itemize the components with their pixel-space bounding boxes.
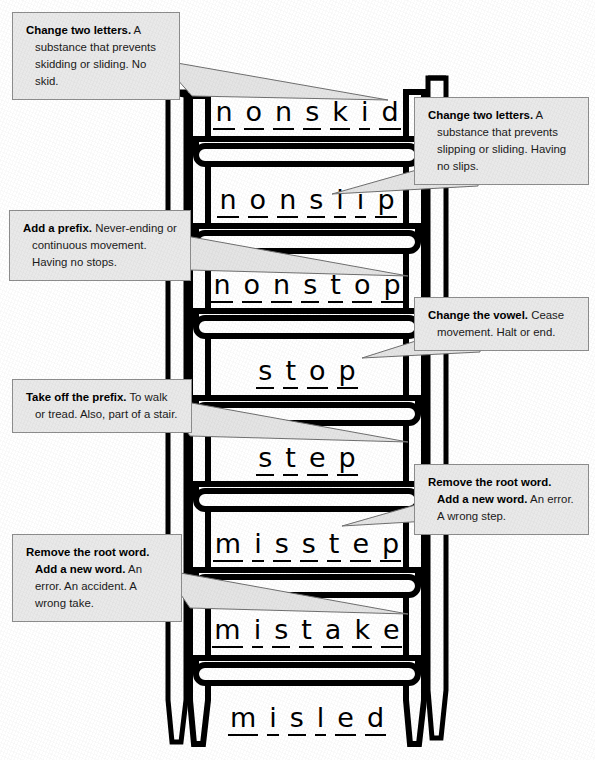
callout-text: Remove the root word. Add a new word. An… [26,544,169,612]
ladder-rung [196,658,418,683]
callout-tail-mistake [150,568,420,620]
word-letter: s [299,530,319,557]
word-letter: s [271,616,291,643]
word-letter: i [251,530,265,557]
word-letter: e [380,616,403,643]
ladder-word-misstep: misstep [196,530,418,557]
word-letter: m [227,704,259,731]
ladder-word-step: step [196,444,418,471]
word-letter: m [212,530,244,557]
callout-instruction: Change two letters. [26,24,131,36]
callout-text: Remove the root word. Add a new word. An… [428,474,576,525]
word-letter: t [282,444,299,471]
word-letter: e [349,530,372,557]
word-letter: s [287,704,307,731]
word-letter: n [216,186,239,213]
word-letter: m [211,616,243,643]
word-letter: i [266,704,280,731]
callout-step: Take off the prefix. To walk or tread. A… [12,379,192,433]
word-letter: o [306,357,329,384]
callout-nonslip: Change two letters. A substance that pre… [414,97,589,185]
callout-text: Change the vowel. Cease movement. Halt o… [428,307,576,341]
word-letter: s [255,357,275,384]
callout-text: Take off the prefix. To walk or tread. A… [26,389,179,423]
word-letter: t [298,616,315,643]
word-letter: p [336,357,359,384]
callout-nonskid: Change two letters. A substance that pre… [12,12,180,100]
word-letter: e [306,444,329,471]
word-letter: p [379,530,402,557]
word-letter: k [351,616,373,643]
ladder-word-mistake: mistake [196,616,418,643]
word-letter: s [306,186,326,213]
callout-text: Change two letters. A substance that pre… [26,22,167,90]
callout-text: Change two letters. A substance that pre… [428,107,576,175]
callout-nonstop: Add a prefix. Never-ending or continuous… [9,210,191,281]
word-letter: s [255,444,275,471]
callout-misstep: Remove the root word. Add a new word. An… [414,464,589,535]
word-letter: s [272,530,292,557]
callout-instruction: Take off the prefix. [26,391,126,403]
callout-stop: Change the vowel. Cease movement. Halt o… [414,297,589,351]
word-letter: p [336,444,359,471]
word-letter: o [247,186,270,213]
callout-instruction: Change the vowel. [428,309,528,321]
callout-instruction: Add a prefix. [23,222,92,234]
word-letter: d [364,704,387,731]
ladder-word-misled: misled [196,704,418,731]
word-letter: t [282,357,299,384]
word-letter: t [326,530,343,557]
callout-text: Add a prefix. Never-ending or continuous… [23,220,178,271]
word-letter: n [276,186,299,213]
word-letter: a [322,616,345,643]
callout-mistake: Remove the root word. Add a new word. An… [12,534,182,622]
callout-instruction: Change two letters. [428,109,533,121]
word-letter: i [251,616,265,643]
word-letter: l [314,704,328,731]
word-letter: e [334,704,357,731]
word-ladder-page: nonskid nonslip nonstop stop step misste… [0,0,595,760]
